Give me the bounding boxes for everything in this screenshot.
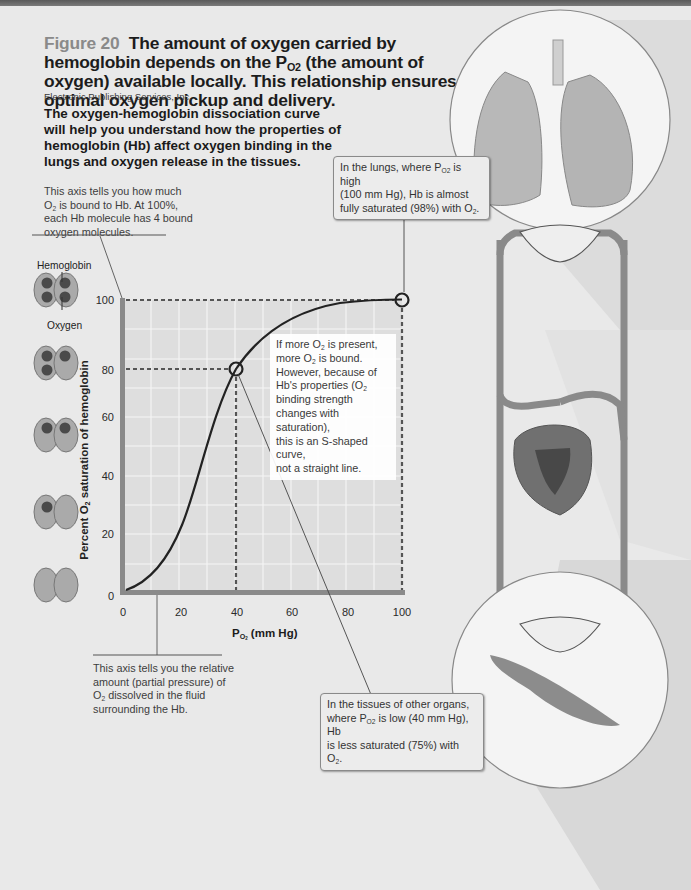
svg-text:100: 100 [393,606,411,618]
svg-text:40: 40 [102,470,114,482]
curve-note: If more O2 is present, more O2 is bound.… [270,334,396,480]
x-axis-bar [120,590,405,595]
x-axis-note: This axis tells you the relative amount … [93,662,273,716]
svg-text:80: 80 [102,364,114,376]
svg-text:60: 60 [102,411,114,423]
svg-text:20: 20 [102,528,114,540]
svg-text:40: 40 [231,606,243,618]
tissues-callout: In the tissues of other organs, where PO… [320,693,484,771]
svg-text:0: 0 [108,590,114,602]
svg-text:0: 0 [120,606,126,618]
hb-0-oxygen-icon [34,568,78,602]
muscle-tissue-illustration [452,572,668,788]
svg-text:80: 80 [342,606,354,618]
y-note-leader [100,236,122,298]
y-tick-labels: 10080 6040 200 [96,294,114,602]
svg-text:60: 60 [286,606,298,618]
hb-4-oxygen-icon [34,273,78,307]
oxygen-label: Oxygen [47,320,82,331]
hb-3-oxygen-icon [34,346,78,380]
x-tick-labels: 020 4060 80100 [120,606,411,618]
hb-2-oxygen-icon [34,418,78,452]
y-axis-bar [120,298,125,595]
hb-1-oxygen-icon [34,495,78,529]
x-axis-label: PO2 (mm Hg) [232,627,298,639]
y-axis-label: Percent O2 saturation of hemoglobin [78,310,90,610]
lungs-callout: In the lungs, where PO2 is high (100 mm … [333,156,490,220]
svg-text:100: 100 [96,294,114,306]
svg-text:20: 20 [175,606,187,618]
hemoglobin-label: Hemoglobin [37,260,91,271]
